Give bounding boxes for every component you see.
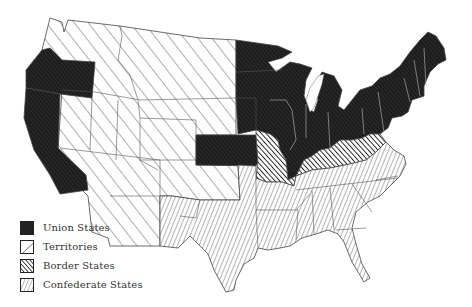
border-swatch-icon (20, 259, 34, 273)
union-swatch-icon (20, 221, 34, 235)
legend-item-confederate: Confederate States (20, 275, 143, 294)
legend-item-territories: Territories (20, 237, 143, 256)
legend-label: Territories (43, 241, 98, 252)
legend-label: Union States (43, 222, 110, 233)
region-kansas (196, 135, 258, 166)
legend-item-union: Union States (20, 218, 143, 237)
territory-swatch-icon (20, 240, 34, 254)
map-legend: Union States Territories Border States C… (20, 218, 143, 294)
legend-label: Confederate States (43, 279, 143, 290)
legend-label: Border States (43, 260, 115, 271)
confederate-swatch-icon (20, 278, 34, 292)
legend-item-border: Border States (20, 256, 143, 275)
